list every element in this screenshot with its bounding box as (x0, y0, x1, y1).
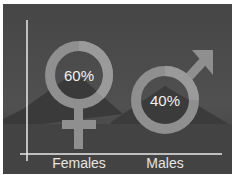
x-tick-label-females: Females (52, 155, 106, 171)
chart-graphic (3, 4, 232, 174)
x-tick-label-males: Males (146, 155, 183, 171)
chart-frame: 60% 40% Females Males (3, 4, 232, 174)
ground (3, 124, 232, 174)
female-value-label: 60% (64, 67, 94, 84)
male-value-label: 40% (150, 92, 180, 109)
